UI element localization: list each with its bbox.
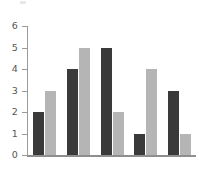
bar bbox=[79, 48, 90, 156]
bar bbox=[134, 134, 145, 156]
bar bbox=[168, 91, 179, 156]
bar bbox=[180, 134, 191, 156]
bar bbox=[67, 69, 78, 155]
bar bbox=[45, 91, 56, 156]
bar-chart: 0123456 bbox=[0, 0, 199, 171]
bar bbox=[146, 69, 157, 155]
bar bbox=[33, 112, 44, 155]
bar bbox=[101, 48, 112, 156]
bar-series-group bbox=[0, 0, 199, 171]
bar bbox=[113, 112, 124, 155]
